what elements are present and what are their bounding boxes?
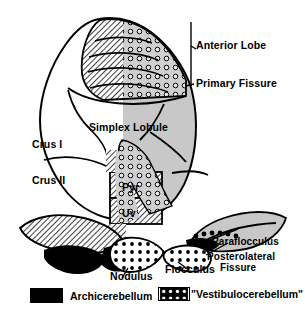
legend-label-archicerebellum: Archicerebellum (70, 290, 152, 302)
legend-swatch-solid-black-icon (30, 288, 63, 303)
label-paraflocculus: Paraflocculus (212, 237, 279, 248)
nodulus-region (110, 238, 164, 272)
label-pyramis: Pyr (122, 182, 139, 193)
label-fissure: Fissure (220, 263, 256, 274)
legend-swatch-dotted-icon (158, 287, 190, 301)
label-nodulus: Nodulus (110, 271, 153, 282)
label-anterior-lobe: Anterior Lobe (196, 40, 266, 51)
cerebellum-diagram: Anterior Lobe Primary Fissure Simplex Lo… (0, 0, 305, 312)
legend-item-vestibulocerebellum: "Vestibulocerebellum" (158, 287, 303, 301)
label-flocculus: Flocculus (165, 264, 215, 275)
label-crus-ii: Crus II (32, 175, 65, 186)
legend-label-vestibulocerebellum: "Vestibulocerebellum" (191, 288, 303, 300)
label-uvula: Uv (122, 208, 136, 219)
label-primary-fissure: Primary Fissure (196, 78, 277, 89)
legend-item-archicerebellum: Archicerebellum (30, 288, 152, 303)
label-crus-i: Crus I (32, 139, 62, 150)
label-simplex-lobule: Simplex Lobule (89, 122, 168, 133)
